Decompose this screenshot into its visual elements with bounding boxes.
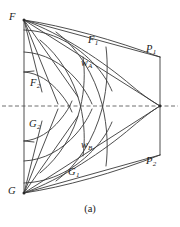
- label-g1-subscript: 1: [76, 171, 80, 179]
- figure-container: F F1 F2 G G1 G2 P1 P2 wA wB (a): [0, 0, 180, 227]
- chord-g-p2: [24, 155, 160, 193]
- label-p2-subscript: 2: [153, 160, 157, 168]
- label-f2-subscript: 2: [37, 82, 41, 90]
- label-f: F: [9, 12, 15, 23]
- vertex-dot-apex: [159, 105, 162, 108]
- tick-upper: [24, 71, 34, 72]
- label-w-b-subscript: B: [88, 144, 92, 152]
- vertex-dot-g: [23, 192, 26, 195]
- label-p2: P2: [146, 156, 156, 167]
- label-w-a: wA: [81, 58, 92, 68]
- tick-lower: [24, 141, 34, 142]
- label-f1-subscript: 1: [95, 39, 99, 47]
- label-g2: G2: [29, 119, 40, 130]
- label-p1: P1: [146, 44, 156, 55]
- label-g2-subscript: 2: [37, 123, 41, 131]
- label-f2: F2: [30, 78, 40, 89]
- label-w-b: wB: [81, 140, 92, 150]
- vertex-dot-f: [23, 19, 26, 22]
- figure-caption: (a): [0, 203, 180, 214]
- label-f1: F1: [88, 35, 98, 46]
- label-w-a-subscript: A: [88, 62, 92, 70]
- label-g1: G1: [68, 167, 79, 178]
- label-g: G: [8, 186, 16, 197]
- label-p1-subscript: 1: [153, 48, 157, 56]
